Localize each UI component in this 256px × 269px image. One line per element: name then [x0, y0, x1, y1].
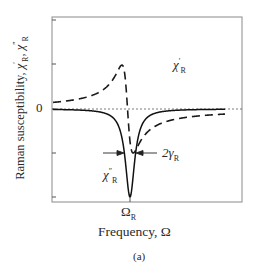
y-tick-label-zero: 0 [36, 100, 43, 116]
subscript-r: R [131, 213, 136, 222]
y-axis-label-text: Raman susceptibility, [13, 69, 27, 180]
double-prime-mark: ″ [12, 42, 21, 45]
chi-symbol: χ [13, 64, 27, 70]
annotation-linewidth: 2γR [162, 145, 179, 163]
y-ticks [52, 20, 56, 197]
x-axis-label: Frequency, Ω [98, 224, 171, 240]
subscript-r: R [21, 36, 30, 41]
double-prime-mark: ″ [109, 167, 112, 176]
subscript-r: R [112, 176, 117, 185]
x-tick-label-resonance: ΩR [121, 204, 136, 222]
two-gamma-text: 2γ [162, 145, 174, 160]
annotation-chi-double-prime: χ″R [103, 167, 117, 185]
subscript-r: R [174, 154, 179, 163]
prime-mark: ′ [12, 62, 21, 64]
width-arrows [103, 151, 157, 156]
subscript-r: R [180, 66, 185, 75]
figure-caption: (a) [133, 250, 145, 262]
prime-mark: ′ [179, 57, 181, 66]
separator: , [13, 50, 27, 56]
chi-symbol: χ [13, 45, 27, 51]
subscript-r: R [21, 57, 30, 62]
omega-symbol: Ω [121, 204, 131, 219]
y-axis-label: Raman susceptibility, χ′R, χ″R [12, 28, 28, 188]
annotation-chi-prime: χ′R [173, 57, 186, 75]
